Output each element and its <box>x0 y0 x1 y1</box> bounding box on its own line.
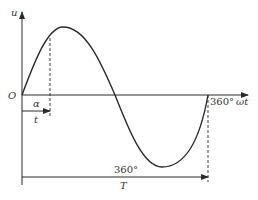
y-axis-label: u <box>11 7 17 18</box>
period-angle-label: 360° <box>114 164 138 175</box>
sine-waveform-diagram: u O 360° ωt α t 360° T <box>0 0 258 200</box>
x-axis-label: ωt <box>236 96 249 107</box>
phase-label: α <box>33 98 40 109</box>
time-label: t <box>34 114 39 125</box>
period-label: T <box>120 180 128 191</box>
x-end-label: 360° <box>210 96 234 107</box>
origin-label: O <box>8 90 16 101</box>
